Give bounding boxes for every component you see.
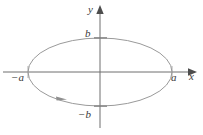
tick-label-a: a — [171, 72, 177, 83]
tick-label-b: b — [85, 28, 91, 39]
y-axis-label: y — [88, 4, 93, 15]
y-axis-arrowhead — [96, 5, 103, 14]
x-axis-label: x — [189, 71, 194, 82]
tick-label-neg-b: −b — [78, 109, 91, 120]
ellipse-figure: y b −a a x −b — [0, 0, 203, 135]
direction-arrow-icon — [56, 97, 67, 101]
figure-canvas — [0, 0, 203, 135]
tick-label-neg-a: −a — [11, 72, 24, 83]
